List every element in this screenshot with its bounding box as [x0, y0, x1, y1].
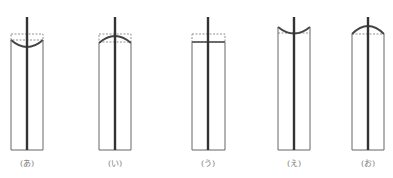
tube-label-i: (い) — [95, 157, 135, 168]
tube-label-u: (う) — [188, 157, 228, 168]
tube-a — [11, 17, 43, 150]
diagram-stage: (あ) (い) (う) (え) (お) — [0, 0, 393, 178]
tube-label-o: (お) — [348, 157, 388, 168]
tube-o — [352, 17, 384, 150]
tube-u — [192, 17, 225, 150]
tube-i — [99, 17, 131, 150]
tube-label-e: (え) — [274, 157, 314, 168]
tubes-diagram — [0, 0, 393, 178]
tube-e — [278, 17, 310, 150]
tube-label-a: (あ) — [7, 157, 47, 168]
